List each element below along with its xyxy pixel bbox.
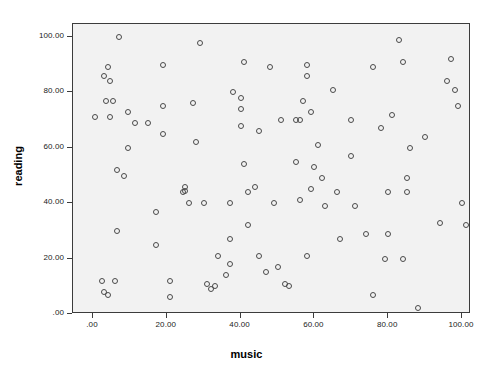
- y-axis-tick: [67, 313, 72, 314]
- data-point: [385, 231, 391, 237]
- data-point: [297, 197, 303, 203]
- x-axis-tick: [387, 313, 388, 318]
- x-axis-tick-label: .00: [62, 320, 122, 329]
- y-axis-tick-label: .00: [18, 308, 64, 317]
- data-point: [459, 200, 465, 206]
- data-point: [212, 283, 218, 289]
- data-point: [319, 175, 325, 181]
- plot-canvas: [73, 24, 469, 312]
- data-point: [116, 34, 122, 40]
- data-point: [125, 109, 131, 115]
- data-point: [223, 272, 229, 278]
- data-point: [322, 203, 328, 209]
- data-point: [404, 175, 410, 181]
- data-point: [227, 236, 233, 242]
- data-point: [396, 37, 402, 43]
- data-point: [400, 59, 406, 65]
- data-point: [370, 64, 376, 70]
- data-point: [385, 189, 391, 195]
- data-point: [190, 100, 196, 106]
- data-point: [382, 256, 388, 262]
- y-axis-tick-label: 60.00: [18, 142, 64, 151]
- data-point: [121, 173, 127, 179]
- data-point: [105, 292, 111, 298]
- x-axis-tick-label: 60.00: [283, 320, 343, 329]
- data-point: [215, 253, 221, 259]
- y-axis-title: reading: [12, 126, 24, 206]
- data-point: [132, 120, 138, 126]
- x-axis-tick-label: 40.00: [210, 320, 270, 329]
- data-point: [389, 112, 395, 118]
- data-point: [348, 153, 354, 159]
- data-point: [378, 125, 384, 131]
- data-point: [92, 114, 98, 120]
- y-axis-tick: [67, 202, 72, 203]
- data-point: [352, 203, 358, 209]
- scatter-plot-figure: .0020.0040.0060.0080.00100.00 .0020.0040…: [0, 0, 493, 376]
- data-point: [308, 109, 314, 115]
- data-point: [245, 189, 251, 195]
- data-point: [311, 164, 317, 170]
- data-point: [407, 145, 413, 151]
- data-point: [99, 278, 105, 284]
- data-point: [448, 56, 454, 62]
- data-point: [308, 186, 314, 192]
- data-point: [114, 228, 120, 234]
- data-point: [160, 131, 166, 137]
- data-point: [286, 283, 292, 289]
- data-point: [337, 236, 343, 242]
- data-point: [227, 200, 233, 206]
- y-axis-tick: [67, 36, 72, 37]
- data-point: [363, 231, 369, 237]
- data-point: [293, 159, 299, 165]
- data-point: [238, 95, 244, 101]
- data-point: [160, 103, 166, 109]
- data-point: [112, 278, 118, 284]
- y-axis-tick: [67, 91, 72, 92]
- data-point: [252, 184, 258, 190]
- data-point: [304, 62, 310, 68]
- data-point: [444, 78, 450, 84]
- data-point: [193, 139, 199, 145]
- data-point: [267, 64, 273, 70]
- data-point: [238, 106, 244, 112]
- data-point: [197, 40, 203, 46]
- data-point: [167, 294, 173, 300]
- x-axis-tick: [313, 313, 314, 318]
- data-point: [437, 220, 443, 226]
- data-point: [415, 305, 421, 311]
- data-point: [463, 222, 469, 228]
- data-point: [107, 114, 113, 120]
- data-point: [422, 134, 428, 140]
- x-axis-tick-label: 100.00: [431, 320, 491, 329]
- data-point: [348, 117, 354, 123]
- data-point: [297, 117, 303, 123]
- y-axis-tick-label: 80.00: [18, 86, 64, 95]
- data-point: [315, 142, 321, 148]
- data-point: [263, 269, 269, 275]
- data-point: [153, 209, 159, 215]
- x-axis-tick: [166, 313, 167, 318]
- data-point: [103, 98, 109, 104]
- data-point: [300, 98, 306, 104]
- data-point: [101, 73, 107, 79]
- y-axis-tick: [67, 258, 72, 259]
- data-point: [304, 253, 310, 259]
- y-axis-tick-label: 40.00: [18, 197, 64, 206]
- data-point: [275, 264, 281, 270]
- x-axis-tick-label: 20.00: [136, 320, 196, 329]
- data-point: [334, 189, 340, 195]
- data-point: [452, 87, 458, 93]
- data-point: [330, 87, 336, 93]
- data-point: [256, 128, 262, 134]
- data-point: [238, 123, 244, 129]
- data-point: [107, 78, 113, 84]
- data-point: [145, 120, 151, 126]
- data-point: [400, 256, 406, 262]
- data-point: [125, 145, 131, 151]
- data-point: [455, 103, 461, 109]
- plot-area-frame: [72, 23, 470, 313]
- x-axis-tick-label: 80.00: [357, 320, 417, 329]
- data-point: [186, 200, 192, 206]
- x-axis-tick: [92, 313, 93, 318]
